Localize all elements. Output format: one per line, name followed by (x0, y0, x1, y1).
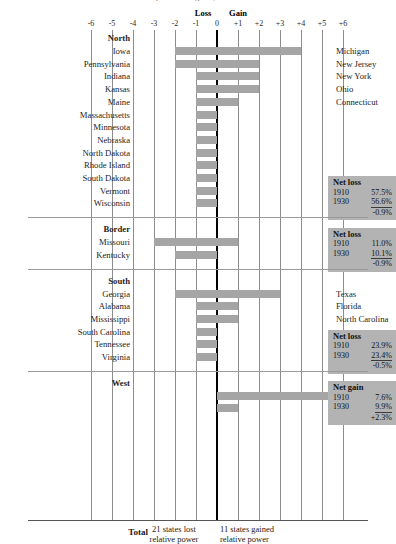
net-summary-box: Net loss191057.5%193056.6%-0.9% (328, 176, 396, 220)
bar (196, 123, 217, 131)
bar (217, 404, 238, 412)
total-gain-line1: 11 states gained (220, 524, 274, 534)
row-label-left: Tennessee (0, 339, 130, 349)
net-change-value: -0.9% (373, 259, 392, 269)
bar (196, 136, 217, 144)
net-change-value: +2.3% (371, 413, 392, 423)
net-value-1910: 7.6% (375, 393, 392, 403)
total-gain-line2: relative power (220, 534, 269, 544)
row-label-left: Minnesota (0, 122, 130, 132)
axis-tick-plus1: +1 (229, 19, 247, 28)
bar (196, 187, 217, 195)
net-row-1910: 191057.5% (333, 188, 392, 198)
net-row-1910: 191023.9% (333, 341, 392, 351)
row-label-right-text: Texas (336, 289, 356, 299)
axis-tick-plus3: +3 (271, 19, 289, 28)
net-row-1930: 193010.1% (333, 249, 392, 260)
bar (196, 302, 238, 310)
row-label-left: Massachusetts (0, 110, 130, 120)
section-divider (28, 217, 368, 218)
net-summary-box: Net loss191023.9%193023.4%-0.5% (328, 330, 396, 374)
net-row-change: +2.3% (333, 413, 392, 423)
axis-tick-minus1: -1 (187, 19, 205, 28)
section-divider (28, 269, 368, 270)
row-label-left: Rhode Island (0, 160, 130, 170)
row-label-left: Alabama (0, 301, 130, 311)
row-label-right: Michigan (336, 46, 369, 56)
net-change-value: -0.9% (373, 208, 392, 218)
bar (175, 60, 259, 68)
net-year-1910: 1910 (333, 239, 355, 249)
section-header-border: Border (0, 224, 130, 234)
section-header-north: North (0, 33, 130, 43)
net-kind-label: Net loss (333, 230, 392, 240)
gridline--4 (133, 30, 134, 520)
total-label: Total (28, 527, 148, 537)
bar (196, 353, 217, 361)
net-value-1930: 9.9% (375, 402, 392, 413)
bar (196, 72, 259, 80)
row-label-left: Iowa (0, 46, 130, 56)
axis-loss-caption: Loss (183, 8, 223, 18)
net-value-1910: 11.0% (372, 239, 392, 249)
row-label-left: Kansas (0, 84, 130, 94)
row-label-left: Missouri (0, 237, 130, 247)
total-divider (28, 520, 368, 521)
axis-tick-plus5: +5 (313, 19, 331, 28)
net-row-1930: 193056.6% (333, 197, 392, 208)
gridline--2 (175, 30, 176, 520)
row-label-right: New Jersey (336, 59, 376, 69)
gridline-3 (280, 30, 281, 520)
net-year-1930: 1930 (333, 249, 355, 260)
net-value-1930: 56.6% (371, 197, 392, 208)
net-row-1910: 19107.6% (333, 393, 392, 403)
row-label-right: Ohio (336, 84, 353, 94)
row-label-left: Maine (0, 97, 130, 107)
bar (196, 111, 217, 119)
axis-tick-minus6: -6 (82, 19, 100, 28)
total-loss-note: 21 states lost relative power (132, 524, 216, 544)
row-label-left: Vermont (0, 186, 130, 196)
bar (196, 328, 217, 336)
bar (196, 199, 217, 207)
gridline-2 (259, 30, 260, 520)
row-label-left: North Dakota (0, 148, 130, 158)
net-row-change: -0.9% (333, 208, 392, 218)
section-divider (28, 371, 368, 372)
row-label-left: Indiana (0, 71, 130, 81)
row-label-left: Wisconsin (0, 198, 130, 208)
bar (175, 47, 301, 55)
axis-tick-0: 0 (208, 19, 226, 28)
net-row-change: -0.9% (333, 259, 392, 269)
net-year-1930: 1930 (333, 351, 355, 362)
net-row-1930: 19309.9% (333, 402, 392, 413)
row-label-right: Florida (336, 301, 361, 311)
net-change-value: -0.5% (373, 361, 392, 371)
bar (196, 98, 238, 106)
row-label-right-text: New Jersey (336, 59, 376, 69)
row-label-left: Georgia (0, 289, 130, 299)
row-label-right-text: Ohio (336, 84, 353, 94)
row-label-left: Nebraska (0, 135, 130, 145)
net-row-1910: 191011.0% (333, 239, 392, 249)
row-label-right-text: North Carolina (336, 314, 388, 324)
clipped-title: relative power of regions, 1910 and 1930 (0, 0, 396, 1)
axis-tick-minus3: -3 (145, 19, 163, 28)
net-value-1910: 23.9% (371, 341, 392, 351)
row-label-right: North Carolina (336, 314, 388, 324)
row-label-left: Mississippi (0, 314, 130, 324)
row-label-right: Texas (336, 289, 356, 299)
row-label-left: Virginia (0, 352, 130, 362)
gridline--3 (154, 30, 155, 520)
bar (175, 251, 217, 259)
net-kind-label: Net loss (333, 332, 392, 342)
row-label-right: Connecticut (336, 97, 378, 107)
net-year-1910: 1910 (333, 341, 355, 351)
net-value-1910: 57.5% (371, 188, 392, 198)
row-label-left: Pennsylvania (0, 59, 130, 69)
total-loss-line2: relative power (150, 534, 199, 544)
axis-tick-minus5: -5 (103, 19, 121, 28)
net-year-1930: 1930 (333, 402, 355, 413)
total-gain-note: 11 states gained relative power (220, 524, 316, 544)
